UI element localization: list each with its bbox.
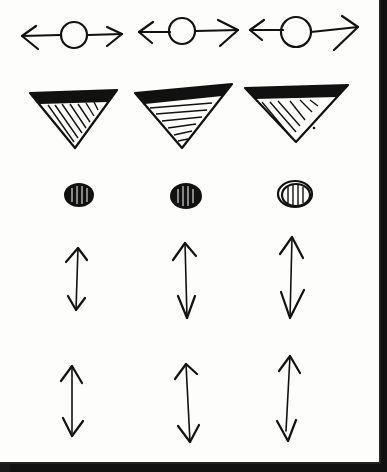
- vertical-arrow-icon-5: [175, 364, 199, 442]
- vertical-arrow-icon-3: [280, 237, 304, 318]
- vertical-arrow-icon-4: [61, 366, 83, 436]
- hatched-triangle-icon-1: [30, 90, 117, 148]
- horizontal-arrow-circle-icon-2: [139, 18, 238, 46]
- horizontal-arrow-circle-icon-3: [250, 16, 358, 50]
- vertical-arrow-icon-6: [277, 356, 300, 441]
- hatched-triangle-icon-3: [245, 85, 348, 142]
- horizontal-arrow-circle-icon-1: [22, 22, 122, 49]
- sketch-canvas: [0, 0, 387, 472]
- hatched-triangle-icon-2: [135, 84, 232, 148]
- vertical-arrow-icon-2: [173, 243, 196, 318]
- hatched-dot-icon-1: [64, 183, 94, 207]
- hatched-dot-icon-2: [170, 183, 202, 209]
- vertical-arrow-icon-1: [66, 248, 87, 310]
- hatched-dot-icon-3: [278, 181, 312, 207]
